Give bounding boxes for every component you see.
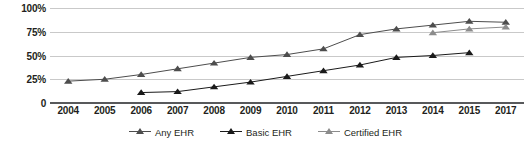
ehr-adoption-line-chart: 025%50%75%100% 2004200520062007200820092… xyxy=(0,0,531,143)
legend-marker-icon xyxy=(220,127,242,137)
x-axis: 2004200520062007200820092010201120122013… xyxy=(50,105,524,121)
data-point-marker xyxy=(319,46,327,52)
legend-item[interactable]: Any EHR xyxy=(129,127,194,138)
y-axis-tick-label: 75% xyxy=(27,26,46,37)
legend-label: Any EHR xyxy=(155,127,194,138)
x-axis-tick-label: 2011 xyxy=(313,105,334,116)
series-layer xyxy=(50,8,524,103)
y-axis-tick-label: 25% xyxy=(27,74,46,85)
legend-label: Certified EHR xyxy=(344,127,402,138)
legend-item[interactable]: Basic EHR xyxy=(220,127,292,138)
x-axis-tick-label: 2006 xyxy=(130,105,151,116)
y-axis-tick-label: 50% xyxy=(27,50,46,61)
x-axis-tick-label: 2010 xyxy=(276,105,297,116)
x-axis-tick-label: 2008 xyxy=(203,105,224,116)
y-axis: 025%50%75%100% xyxy=(0,8,46,103)
x-axis-tick-label: 2015 xyxy=(459,105,480,116)
chart-legend: Any EHRBasic EHRCertified EHR xyxy=(0,124,531,140)
legend-marker-icon xyxy=(129,127,151,137)
x-axis-tick-label: 2005 xyxy=(94,105,115,116)
x-axis-tick-label: 2013 xyxy=(386,105,407,116)
series-line xyxy=(68,21,506,81)
x-axis-tick-label: 2009 xyxy=(240,105,261,116)
plot-area xyxy=(50,8,524,103)
x-axis-tick-label: 2012 xyxy=(349,105,370,116)
x-axis-tick-label: 2017 xyxy=(495,105,516,116)
y-axis-tick-label: 0 xyxy=(41,98,46,109)
x-axis-tick-label: 2004 xyxy=(57,105,78,116)
x-axis-tick-label: 2014 xyxy=(422,105,443,116)
legend-label: Basic EHR xyxy=(246,127,292,138)
legend-item[interactable]: Certified EHR xyxy=(318,127,402,138)
y-axis-tick-label: 100% xyxy=(21,3,46,14)
legend-marker-icon xyxy=(318,127,340,137)
data-point-marker xyxy=(465,49,473,55)
series-line xyxy=(141,53,469,93)
x-axis-tick-label: 2007 xyxy=(167,105,188,116)
